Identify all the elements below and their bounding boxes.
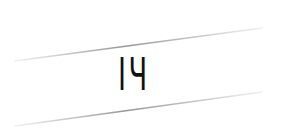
- captcha-text: IЧ: [118, 50, 150, 100]
